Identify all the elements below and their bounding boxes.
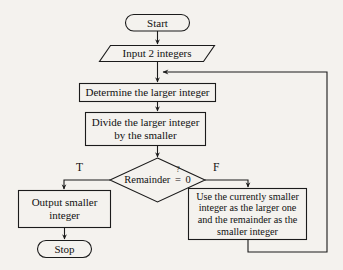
- connector-true-branch: [64, 180, 110, 189]
- divide-process-shape: [86, 113, 206, 146]
- start-terminator-shape: [126, 15, 190, 32]
- connector-false-branch: [205, 180, 248, 187]
- flowchart-graphics: [0, 0, 343, 270]
- false-branch-label: F: [213, 161, 219, 173]
- input-parallelogram-shape: [100, 46, 215, 62]
- true-branch-label: T: [76, 161, 83, 173]
- output-process-shape: [19, 191, 111, 228]
- stop-terminator-shape: [38, 241, 92, 258]
- determine-process-shape: [80, 84, 216, 102]
- update-process-shape: [189, 189, 307, 240]
- flowchart-canvas: Start Input 2 integers Determine the lar…: [0, 0, 343, 270]
